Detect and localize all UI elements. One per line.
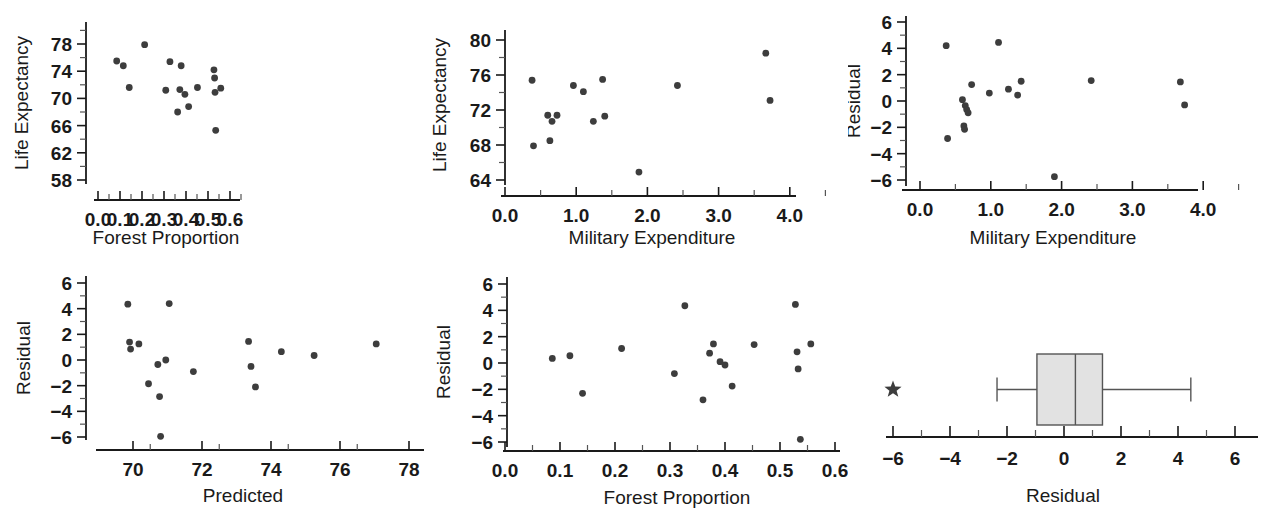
- data-point: [135, 341, 142, 348]
- panel-residual-boxplot-svg: −6−4−20246 Residual: [848, 262, 1272, 525]
- data-point: [995, 39, 1002, 46]
- data-point: [590, 118, 597, 125]
- y-axis-ticklabels: 787470666258: [51, 34, 73, 191]
- data-point: [373, 341, 380, 348]
- x-tick-label: 0.3: [657, 460, 683, 481]
- y-tick-label: 4: [881, 38, 892, 59]
- x-axis-ticklabels: 7072747678: [122, 459, 419, 480]
- x-tick-label: 6: [1230, 448, 1241, 469]
- x-tick-label: 0.2: [602, 460, 628, 481]
- box-iqr: [1037, 354, 1103, 425]
- x-tick-label: −2: [996, 448, 1018, 469]
- data-point: [986, 90, 993, 97]
- data-point: [190, 368, 197, 375]
- data-point: [546, 137, 553, 144]
- y-tick-label: −6: [471, 432, 493, 453]
- x-axis-ticks: [98, 191, 241, 200]
- x-tick-label: 2: [1116, 448, 1127, 469]
- x-tick-label: 1.0: [978, 199, 1004, 220]
- data-point: [729, 383, 736, 390]
- y-tick-label: −6: [50, 427, 72, 448]
- y-tick-label: 0: [482, 353, 493, 374]
- panel-life-vs-military: 8076726864 Life Expectancy 0.01.02.03.04…: [424, 0, 848, 262]
- x-axis-title: Military Expenditure: [569, 227, 736, 248]
- data-point: [529, 77, 536, 84]
- y-tick-label: 2: [881, 65, 892, 86]
- x-axis-ticklabels: −6−4−20246: [882, 448, 1240, 469]
- x-tick-label: 4: [1173, 448, 1184, 469]
- data-point: [217, 85, 224, 92]
- data-point: [162, 87, 169, 94]
- data-point: [671, 370, 678, 377]
- x-tick-label: 0.5: [767, 460, 794, 481]
- data-point: [157, 433, 164, 440]
- data-point: [212, 127, 219, 134]
- data-point: [549, 118, 556, 125]
- data-point: [1177, 79, 1184, 86]
- data-point: [681, 302, 688, 309]
- data-point: [166, 300, 173, 307]
- y-tick-label: 76: [470, 65, 491, 86]
- x-tick-label: 4.0: [1190, 199, 1216, 220]
- data-point: [580, 88, 587, 95]
- y-tick-label: 2: [61, 324, 72, 345]
- x-tick-label: 72: [191, 459, 212, 480]
- data-point: [1051, 173, 1058, 180]
- data-point: [1014, 92, 1021, 99]
- panel-residual-boxplot: −6−4−20246 Residual: [848, 262, 1272, 524]
- y-tick-label: 0: [881, 91, 892, 112]
- x-tick-label: 4.0: [777, 205, 803, 226]
- y-tick-label: 66: [51, 116, 72, 137]
- data-point: [554, 112, 561, 119]
- data-point: [959, 96, 966, 103]
- y-axis-ticks: [496, 40, 505, 180]
- y-tick-label: −2: [50, 376, 72, 397]
- y-axis-ticklabels: 6420−2−4−6: [870, 12, 892, 191]
- y-tick-label: −4: [471, 406, 493, 427]
- data-point: [162, 357, 169, 364]
- outlier-star-marker: [884, 381, 901, 397]
- data-point: [154, 361, 161, 368]
- y-axis-title: Residual: [848, 64, 864, 138]
- data-point: [700, 396, 707, 403]
- data-point: [126, 339, 133, 346]
- x-axis-title: Predicted: [203, 485, 283, 506]
- y-tick-label: −2: [471, 379, 493, 400]
- x-tick-label: 0.0: [492, 460, 518, 481]
- data-point: [807, 341, 814, 348]
- x-tick-label: 76: [329, 459, 350, 480]
- data-point: [212, 89, 219, 96]
- y-axis-title: Life Expectancy: [429, 37, 450, 172]
- y-tick-label: 6: [61, 273, 72, 294]
- x-tick-label: 3.0: [705, 205, 731, 226]
- y-tick-label: −6: [870, 170, 892, 191]
- data-point: [167, 58, 174, 65]
- x-axis-ticklabels: 0.01.02.03.04.0: [907, 199, 1217, 220]
- y-tick-label: 68: [470, 135, 491, 156]
- y-axis-ticks: [498, 284, 507, 442]
- x-axis-ticks: [133, 441, 424, 450]
- panel-residual-vs-predicted: 6420−2−4−6 Residual 7072747678 Predicted: [0, 262, 424, 524]
- data-point: [145, 380, 152, 387]
- x-axis-ticklabels: 0.00.10.20.30.40.50.6: [492, 460, 848, 481]
- y-axis-ticks: [77, 30, 86, 180]
- y-axis-title: Life Expectancy: [11, 35, 32, 170]
- data-point: [567, 352, 574, 359]
- data-point: [636, 169, 643, 176]
- data-point: [1088, 77, 1095, 84]
- data-point: [185, 103, 192, 110]
- y-tick-label: −2: [870, 117, 892, 138]
- y-axis-ticklabels: 6420−2−4−6: [50, 273, 72, 448]
- x-tick-label: 70: [122, 459, 143, 480]
- data-point: [113, 58, 120, 65]
- y-axis-ticks: [897, 22, 906, 180]
- data-point: [252, 384, 259, 391]
- x-axis-ticks: [893, 426, 1235, 437]
- data-point: [245, 338, 252, 345]
- x-axis-title: Forest Proportion: [604, 487, 751, 508]
- x-tick-label: 74: [260, 459, 282, 480]
- data-point: [549, 355, 556, 362]
- y-tick-label: 58: [51, 170, 72, 191]
- y-tick-label: 62: [51, 143, 72, 164]
- data-point: [795, 366, 802, 373]
